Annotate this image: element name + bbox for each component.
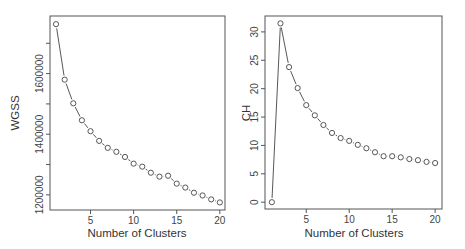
- data-point: [355, 142, 360, 147]
- data-point: [148, 170, 153, 175]
- data-point: [390, 154, 395, 159]
- data-point: [131, 161, 136, 166]
- data-point: [97, 138, 102, 143]
- data-point: [140, 164, 145, 169]
- data-point: [424, 159, 429, 164]
- wgss-plot: 5101520 120000014000001600000 Number of …: [9, 16, 226, 239]
- series-line-segment: [189, 190, 190, 191]
- data-point: [191, 190, 196, 195]
- data-point: [304, 103, 309, 108]
- data-point: [312, 113, 317, 118]
- series-line-segment: [120, 154, 121, 155]
- data-point: [372, 150, 377, 155]
- data-point: [71, 101, 76, 106]
- data-point: [415, 158, 420, 163]
- x-tick-label: 15: [387, 214, 399, 225]
- x-tick-label: 20: [214, 215, 226, 226]
- series-line-segment: [128, 160, 130, 162]
- plot-frame: [50, 16, 225, 210]
- series-line-segment: [102, 144, 104, 146]
- data-point: [174, 181, 179, 186]
- data-point: [286, 64, 291, 69]
- data-point: [105, 145, 110, 150]
- y-tick-label: 25: [249, 54, 260, 66]
- data-point: [269, 200, 274, 205]
- series-line-segment: [291, 71, 296, 84]
- x-tick-label: 10: [344, 214, 356, 225]
- y-tick-label: 20: [249, 83, 260, 95]
- data-point: [338, 135, 343, 140]
- plot-frame: [265, 16, 442, 209]
- data-point: [295, 85, 300, 90]
- x-axis-label: Number of Clusters: [87, 227, 186, 239]
- chart-canvas: 5101520 120000014000001600000 Number of …: [0, 0, 465, 249]
- x-axis-ticks: 5101520: [88, 210, 226, 226]
- data-point: [347, 138, 352, 143]
- series-line-segment: [171, 179, 173, 181]
- y-axis-label: CH: [240, 105, 252, 122]
- data-point: [278, 21, 283, 26]
- series-line-segment: [300, 92, 305, 102]
- data-point: [433, 160, 438, 165]
- data-point: [407, 156, 412, 161]
- y-tick-label: 1400000: [34, 114, 45, 153]
- data-point: [79, 118, 84, 123]
- series-line-segment: [318, 118, 321, 121]
- series-line-segment: [146, 169, 148, 170]
- data-point: [381, 154, 386, 159]
- x-tick-label: 15: [171, 215, 183, 226]
- y-axis-label: WGSS: [9, 95, 21, 130]
- data-point: [329, 130, 334, 135]
- data-point: [114, 149, 119, 154]
- data-point: [321, 122, 326, 127]
- ch-plot: 5101520 051015202530 Number of Clusters …: [240, 16, 442, 239]
- data-point: [157, 174, 162, 179]
- data-point: [209, 197, 214, 202]
- series-line-segment: [93, 134, 96, 137]
- x-tick-label: 20: [430, 214, 442, 225]
- ch-series: [269, 21, 437, 205]
- data-point: [122, 154, 127, 159]
- data-point: [364, 146, 369, 151]
- series-line-segment: [57, 28, 64, 75]
- y-tick-label: 10: [249, 139, 260, 151]
- y-tick-label: 1200000: [34, 175, 45, 214]
- x-axis-ticks: 5101520: [303, 209, 441, 225]
- data-point: [62, 77, 67, 82]
- wgss-series: [53, 22, 222, 205]
- x-tick-label: 5: [303, 214, 309, 225]
- y-tick-label: 30: [249, 26, 260, 38]
- y-tick-label: 5: [249, 171, 260, 177]
- data-point: [398, 155, 403, 160]
- data-point: [88, 129, 93, 134]
- data-point: [217, 200, 222, 205]
- series-line-segment: [85, 124, 88, 128]
- y-tick-label: 1600000: [34, 54, 45, 93]
- x-tick-label: 5: [88, 215, 94, 226]
- series-line-segment: [272, 28, 280, 198]
- series-line-segment: [281, 28, 288, 63]
- series-line-segment: [75, 107, 80, 116]
- x-axis-label: Number of Clusters: [304, 227, 403, 239]
- data-point: [53, 22, 58, 27]
- x-tick-label: 10: [128, 215, 140, 226]
- data-point: [183, 185, 188, 190]
- series-line-segment: [336, 135, 337, 136]
- series-line-segment: [327, 128, 329, 130]
- data-point: [166, 173, 171, 178]
- data-point: [200, 193, 205, 198]
- y-tick-label: 0: [249, 199, 260, 205]
- y-axis-ticks: 120000014000001600000: [34, 43, 50, 214]
- series-line-segment: [66, 84, 72, 100]
- series-line-segment: [309, 108, 312, 112]
